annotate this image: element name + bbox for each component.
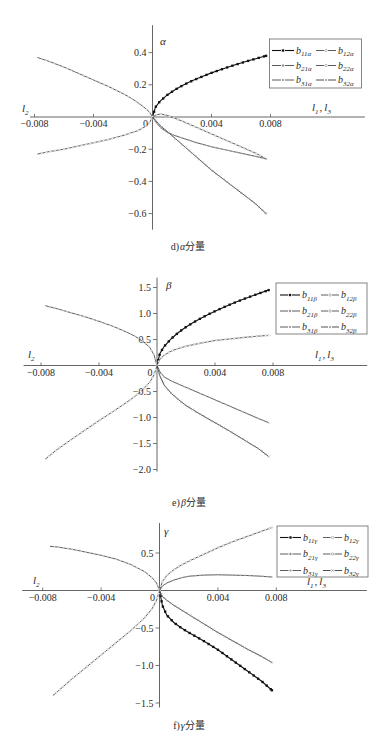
data-point-marker — [254, 294, 256, 296]
x-right-label-a-sub: 1 — [315, 108, 319, 116]
data-point-marker — [167, 378, 169, 380]
data-point-marker — [241, 153, 243, 155]
data-point-marker — [92, 424, 94, 426]
data-point-marker — [266, 684, 268, 686]
data-point-marker — [126, 402, 128, 404]
data-point-marker — [168, 340, 170, 342]
data-point-marker — [254, 416, 256, 418]
data-point-marker — [244, 668, 246, 670]
data-point-marker — [208, 396, 210, 398]
data-point-marker — [192, 389, 194, 391]
data-point-marker — [156, 597, 158, 599]
data-point-marker — [196, 391, 198, 393]
legend-label-sub: 21γ — [308, 554, 318, 562]
data-point-marker — [167, 574, 169, 576]
caption-prefix: e) — [172, 497, 180, 509]
legend: b11αb12αb21αb22αb31αb32α — [270, 39, 362, 88]
data-point-marker — [54, 150, 56, 152]
data-point-marker — [180, 347, 182, 349]
data-point-marker — [85, 143, 87, 145]
data-point-marker — [247, 60, 249, 62]
data-point-marker — [89, 552, 91, 554]
gamma-component-chart: −0.008−0.00400.0040.0080.5−0.5−1.0−1.5 γ… — [22, 523, 368, 732]
data-point-marker — [243, 537, 245, 539]
data-point-marker — [190, 575, 192, 577]
data-point-marker — [111, 557, 113, 559]
data-point-marker — [86, 665, 88, 667]
data-point-marker — [289, 326, 291, 328]
caption-prefix: f) — [173, 720, 180, 732]
data-point-marker — [169, 115, 171, 117]
data-point-marker — [111, 138, 113, 140]
x-axis-left-label: l2 — [28, 348, 35, 363]
data-point-marker — [193, 141, 195, 143]
data-point-marker — [236, 152, 238, 154]
data-point-marker — [199, 575, 201, 577]
data-point-marker — [98, 554, 100, 556]
data-point-marker — [162, 97, 164, 99]
data-point-marker — [271, 527, 273, 529]
data-point-marker — [151, 118, 153, 120]
data-point-marker — [200, 393, 202, 395]
data-point-marker — [325, 49, 327, 51]
x-tick-label: 0 — [148, 367, 153, 378]
x-right-label-b-sub: 3 — [326, 108, 331, 116]
data-point-marker — [161, 349, 163, 351]
data-point-marker — [245, 154, 247, 156]
x-tick-label: −0.004 — [79, 118, 107, 129]
data-point-marker — [175, 88, 177, 90]
data-point-marker — [69, 680, 71, 682]
data-point-marker — [331, 553, 333, 555]
data-point-marker — [120, 135, 122, 137]
data-point-marker — [76, 674, 78, 676]
data-point-marker — [233, 407, 235, 409]
data-point-marker — [179, 626, 181, 628]
y-tick-label: −0.6 — [128, 208, 146, 219]
y-tick-label: 0.5 — [141, 548, 154, 559]
x-tick-label: −0.008 — [20, 118, 48, 129]
data-point-marker — [247, 149, 249, 151]
data-point-marker — [184, 386, 186, 388]
data-point-marker — [178, 566, 180, 568]
data-point-marker — [73, 437, 75, 439]
data-point-marker — [210, 550, 212, 552]
plot-area — [45, 289, 269, 459]
x-tick-label: −0.008 — [27, 367, 55, 378]
legend-label-sub: 31α — [300, 80, 312, 88]
data-point-marker — [202, 129, 204, 131]
data-point-marker — [185, 82, 187, 84]
x-left-label-sub: 2 — [36, 581, 40, 589]
data-point-marker — [133, 396, 135, 398]
x-tick-label: 0.008 — [265, 592, 288, 603]
data-point-marker — [50, 150, 52, 152]
data-point-marker — [331, 536, 333, 538]
data-point-marker — [186, 576, 188, 578]
data-point-marker — [271, 576, 273, 578]
data-point-marker — [133, 131, 135, 133]
data-point-marker — [70, 439, 72, 441]
data-point-marker — [167, 615, 169, 617]
data-point-marker — [94, 142, 96, 144]
y-axis-label: γ — [164, 525, 169, 537]
data-point-marker — [155, 105, 157, 107]
data-point-marker — [114, 409, 116, 411]
data-point-marker — [76, 549, 78, 551]
data-point-marker — [164, 344, 166, 346]
data-point-marker — [55, 692, 57, 694]
x-left-label-sub: 2 — [31, 355, 35, 363]
data-point-marker — [203, 315, 205, 317]
alpha-component-chart: −0.008−0.00400.0040.0080.40.2−0.2−0.4−0.… — [20, 25, 364, 253]
data-point-marker — [260, 531, 262, 533]
data-point-marker — [219, 148, 221, 150]
data-point-marker — [184, 326, 186, 328]
data-point-marker — [171, 91, 173, 93]
data-point-marker — [176, 135, 178, 137]
data-point-marker — [155, 369, 157, 371]
data-point-marker — [260, 335, 262, 337]
data-point-marker — [96, 320, 98, 322]
data-point-marker — [195, 78, 197, 80]
data-point-marker — [59, 689, 61, 691]
panel-caption: d)α分量 — [171, 241, 206, 253]
data-point-marker — [111, 412, 113, 414]
legend-label-sub: 32γ — [348, 570, 359, 578]
